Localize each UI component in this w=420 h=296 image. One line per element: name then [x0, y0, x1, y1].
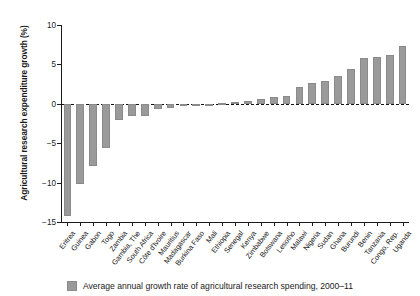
bar[interactable]: [257, 99, 265, 104]
x-tick: [390, 222, 391, 226]
bar[interactable]: [244, 101, 252, 104]
x-tick: [274, 222, 275, 226]
bar[interactable]: [373, 57, 381, 103]
y-tick-label: −10: [30, 178, 56, 187]
y-tick-label: 0: [30, 99, 56, 108]
bar[interactable]: [347, 69, 355, 104]
bar-group: [61, 25, 409, 222]
x-tick: [132, 222, 133, 226]
bar[interactable]: [180, 104, 188, 106]
x-tick: [403, 222, 404, 226]
x-tick: [119, 222, 120, 226]
bar[interactable]: [399, 46, 407, 104]
x-tick: [222, 222, 223, 226]
x-tick: [67, 222, 68, 226]
bar[interactable]: [308, 83, 316, 104]
y-tick-label: −5: [30, 139, 56, 148]
x-tick: [158, 222, 159, 226]
x-tick: [171, 222, 172, 226]
x-tick: [93, 222, 94, 226]
legend-swatch-icon: [67, 281, 77, 291]
x-tick: [106, 222, 107, 226]
x-tick: [312, 222, 313, 226]
y-tick-label: 5: [30, 60, 56, 69]
x-tick: [235, 222, 236, 226]
bar[interactable]: [76, 104, 84, 184]
y-tick-label: −15: [30, 218, 56, 227]
x-tick: [183, 222, 184, 226]
chart-legend: Average annual growth rate of agricultur…: [0, 281, 420, 291]
bar[interactable]: [89, 104, 97, 166]
x-tick: [80, 222, 81, 226]
bar[interactable]: [386, 55, 394, 104]
bar[interactable]: [296, 87, 304, 104]
bar[interactable]: [102, 104, 110, 148]
bar[interactable]: [141, 104, 149, 116]
bar[interactable]: [154, 104, 162, 109]
bar[interactable]: [115, 104, 123, 120]
x-tick: [145, 222, 146, 226]
bar[interactable]: [205, 104, 213, 106]
bar[interactable]: [334, 76, 342, 104]
x-tick: [325, 222, 326, 226]
x-tick: [364, 222, 365, 226]
legend-label: Average annual growth rate of agricultur…: [83, 281, 353, 291]
x-tick: [338, 222, 339, 226]
chart-figure: Agricultural research expenditure growth…: [0, 0, 420, 296]
x-tick: [196, 222, 197, 226]
x-tick: [299, 222, 300, 226]
bar[interactable]: [360, 58, 368, 104]
y-axis-title: Agricultural research expenditure growth…: [19, 13, 29, 213]
bar[interactable]: [192, 104, 200, 106]
y-tick-label: 10: [30, 21, 56, 30]
bar[interactable]: [270, 97, 278, 104]
bar[interactable]: [321, 81, 329, 104]
x-tick: [351, 222, 352, 226]
x-tick: [377, 222, 378, 226]
bar[interactable]: [218, 103, 226, 105]
x-tick: [209, 222, 210, 226]
plot-area: 1050−5−10−15: [61, 25, 409, 222]
bar[interactable]: [64, 104, 72, 217]
bar[interactable]: [128, 104, 136, 117]
x-tick: [248, 222, 249, 226]
bar[interactable]: [231, 102, 239, 104]
bar[interactable]: [167, 104, 175, 108]
x-tick: [261, 222, 262, 226]
bar[interactable]: [283, 96, 291, 104]
x-tick: [287, 222, 288, 226]
